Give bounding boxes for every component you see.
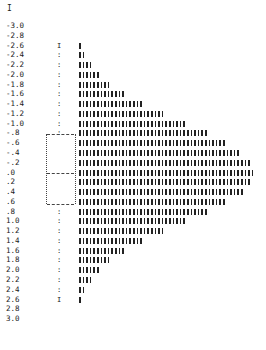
histogram-row: 2.6I [0, 295, 266, 305]
histogram-row: 2.8 [0, 304, 266, 314]
histogram-bar [79, 257, 111, 263]
histogram-row: -.6 [0, 138, 266, 148]
histogram-row: -1.4: [0, 99, 266, 109]
histogram-bar [79, 130, 209, 136]
histogram-row: .0 [0, 168, 266, 178]
histogram-bar [79, 179, 252, 185]
y-tick-label: 1.2 [6, 226, 20, 236]
histogram-row: -2.0: [0, 70, 266, 80]
whisker-end: I [57, 295, 61, 305]
histogram-bar [79, 170, 255, 176]
histogram-row: -1.2: [0, 109, 266, 119]
y-tick-label: -1.2 [6, 109, 24, 119]
y-tick-label: 1.4 [6, 236, 20, 246]
histogram-row: 2.0: [0, 265, 266, 275]
histogram-row: .6 [0, 197, 266, 207]
histogram-row: 1.4: [0, 236, 266, 246]
y-tick-label: .0 [6, 168, 15, 178]
whisker-line: : [57, 50, 61, 60]
histogram-row: -.2 [0, 158, 266, 168]
y-tick-label: -2.6 [6, 41, 24, 51]
histogram-row: -.4 [0, 148, 266, 158]
y-tick-label: 2.0 [6, 265, 20, 275]
whisker-line: : [57, 70, 61, 80]
whisker-line: : [57, 89, 61, 99]
boxplot-q3-line [47, 204, 74, 205]
y-tick-label: .6 [6, 197, 15, 207]
histogram-row: 1.8: [0, 255, 266, 265]
y-tick-label: -2.2 [6, 60, 24, 70]
y-tick-label: -1.0 [6, 119, 24, 129]
histogram-bar [79, 209, 209, 215]
histogram-row: -2.2: [0, 60, 266, 70]
histogram-row: -2.6I [0, 41, 266, 51]
y-tick-label: 1.0 [6, 216, 20, 226]
histogram-row: 1.2: [0, 226, 266, 236]
y-tick-label: -2.4 [6, 50, 24, 60]
histogram-row: -2.8 [0, 31, 266, 41]
y-tick-label: -.8 [6, 128, 20, 138]
y-tick-label: -2.0 [6, 70, 24, 80]
histogram-row: -1.0: [0, 119, 266, 129]
whisker-end: I [57, 41, 61, 51]
y-tick-label: .8 [6, 207, 15, 217]
histogram-row: 2.4: [0, 285, 266, 295]
histogram-row: -3.0 [0, 21, 266, 31]
y-tick-label: .2 [6, 177, 15, 187]
histogram-bar [79, 189, 245, 195]
histogram-bar [79, 82, 111, 88]
whisker-line: : [57, 285, 61, 295]
histogram-bar [79, 91, 126, 97]
histogram-row: 1.0: [0, 216, 266, 226]
whisker-line: : [57, 119, 61, 129]
y-tick-label: 2.6 [6, 295, 20, 305]
whisker-line: : [57, 246, 61, 256]
histogram-bar [79, 52, 86, 58]
histogram-bar [79, 238, 144, 244]
histogram-bar [79, 140, 227, 146]
y-tick-label: 1.6 [6, 246, 20, 256]
histogram-bar [79, 228, 165, 234]
whisker-line: : [57, 60, 61, 70]
y-tick-label: -1.8 [6, 80, 24, 90]
histogram-row: 1.6: [0, 246, 266, 256]
y-tick-label: 2.8 [6, 304, 20, 314]
histogram-row: 2.2: [0, 275, 266, 285]
histogram-bar [79, 248, 126, 254]
histogram-row: .8: [0, 207, 266, 217]
histogram-bar [79, 62, 93, 68]
histogram-bar [79, 160, 252, 166]
histogram-bar [79, 199, 227, 205]
y-tick-label: -3.0 [6, 21, 24, 31]
histogram-bar [79, 287, 86, 293]
y-tick-label: -.2 [6, 158, 20, 168]
histogram-bar [79, 121, 187, 127]
y-tick-label: -1.4 [6, 99, 24, 109]
histogram-row: -1.8: [0, 80, 266, 90]
histogram-row: -2.4: [0, 50, 266, 60]
histogram-bar [79, 72, 101, 78]
y-tick-label: 1.8 [6, 255, 20, 265]
y-tick-label: 2.2 [6, 275, 20, 285]
histogram-row: -1.6: [0, 89, 266, 99]
top-marker: I [7, 4, 12, 13]
y-tick-label: -.4 [6, 148, 20, 158]
whisker-line: : [57, 80, 61, 90]
boxplot-box [46, 134, 76, 203]
whisker-line: : [57, 207, 61, 217]
y-tick-label: -.6 [6, 138, 20, 148]
histogram-bar [79, 267, 101, 273]
whisker-line: : [57, 275, 61, 285]
y-tick-label: 3.0 [6, 314, 20, 324]
histogram-bar [79, 43, 83, 49]
histogram-bar [79, 150, 241, 156]
histogram-row: .4 [0, 187, 266, 197]
whisker-line: : [57, 109, 61, 119]
histogram-bar [79, 101, 144, 107]
histogram-row: .2 [0, 177, 266, 187]
histogram-row: 3.0 [0, 314, 266, 324]
y-tick-label: 2.4 [6, 285, 20, 295]
whisker-line: : [57, 226, 61, 236]
whisker-line: : [57, 99, 61, 109]
histogram-bar [79, 218, 187, 224]
